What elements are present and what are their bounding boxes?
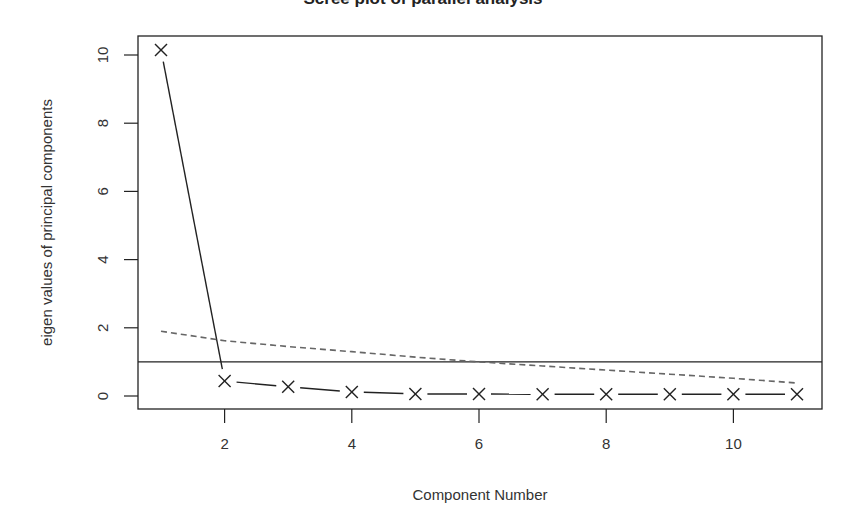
x-marker — [727, 388, 739, 400]
y-tick-label: 2 — [94, 324, 111, 332]
x-marker — [219, 375, 231, 387]
y-tick-label: 6 — [94, 187, 111, 195]
y-tick-label: 10 — [94, 47, 111, 64]
observed-eigenvalue-line — [364, 392, 404, 393]
y-tick-label: 4 — [94, 255, 111, 263]
parallel-analysis-line — [161, 331, 797, 383]
x-marker — [155, 44, 167, 56]
x-marker — [282, 381, 294, 393]
x-axis-label: Component Number — [412, 486, 547, 503]
axes: 0246810246810Component Numbereigen value… — [38, 36, 822, 503]
y-tick-label: 8 — [94, 119, 111, 127]
observed-eigenvalue-line — [300, 388, 340, 391]
x-marker — [537, 388, 549, 400]
x-marker — [600, 388, 612, 400]
x-marker — [409, 388, 421, 400]
x-marker — [346, 386, 358, 398]
plot-area — [138, 44, 822, 400]
x-tick-label: 6 — [475, 435, 483, 452]
x-tick-label: 10 — [725, 435, 742, 452]
x-marker — [664, 388, 676, 400]
x-tick-label: 4 — [348, 435, 356, 452]
x-tick-label: 8 — [602, 435, 610, 452]
scree-plot: 0246810246810Component Numbereigen value… — [0, 0, 846, 522]
plot-frame — [138, 36, 822, 409]
y-axis-label: eigen values of principal components — [38, 99, 55, 346]
observed-eigenvalue-line — [237, 382, 277, 386]
observed-eigenvalue-line — [163, 62, 222, 370]
y-tick-label: 0 — [94, 392, 111, 400]
x-marker — [473, 388, 485, 400]
x-tick-label: 2 — [220, 435, 228, 452]
x-marker — [791, 388, 803, 400]
